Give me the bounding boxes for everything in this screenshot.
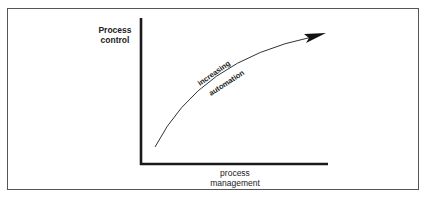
y-axis-label: Process control (90, 25, 140, 45)
y-axis-label-line1: Process (90, 25, 140, 35)
y-axis-label-line2: control (90, 35, 140, 45)
x-axis-label: process management (195, 168, 275, 188)
automation-curve (155, 37, 312, 147)
x-axis-label-line2: management (195, 178, 275, 188)
x-axis-label-line1: process (195, 168, 275, 178)
